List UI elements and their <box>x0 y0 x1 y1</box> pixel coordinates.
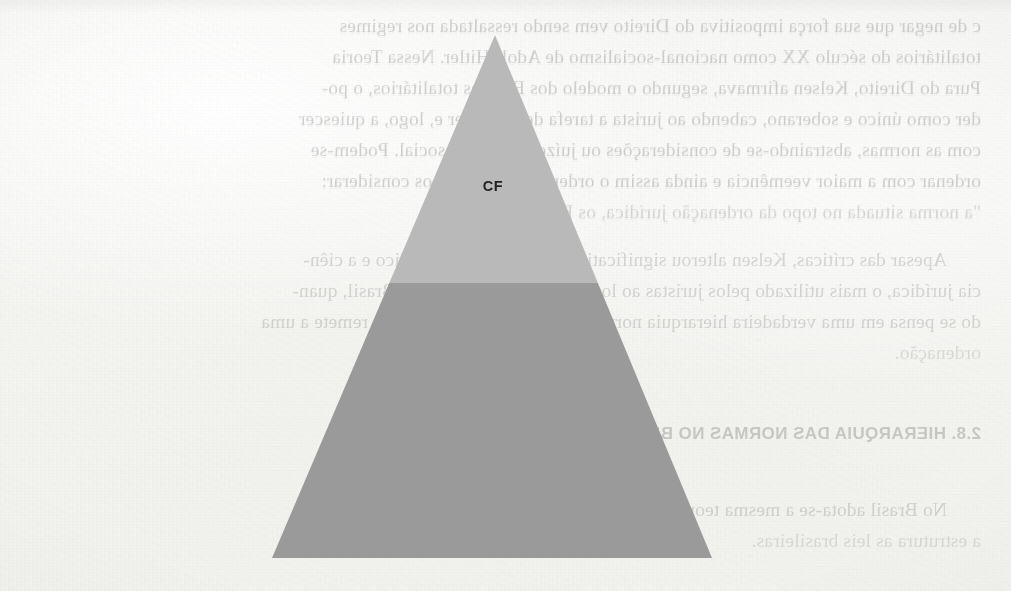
paper-background <box>0 0 1011 591</box>
scanned-page: c de negar que sua força impositiva do D… <box>0 0 1011 591</box>
pyramid-apex-label: CF <box>463 178 523 194</box>
